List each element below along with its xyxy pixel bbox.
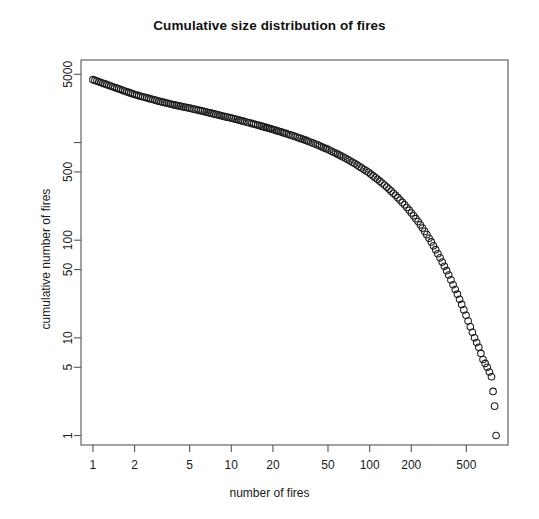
x-tick-label: 20 [266,458,280,472]
x-tick-label: 1 [90,458,97,472]
y-tick-label: 100 [61,230,75,250]
y-axis-label: cumulative number of fires [39,114,53,404]
plot-frame [81,60,508,445]
data-point [491,403,498,410]
data-point [430,243,437,250]
chart-container: Cumulative size distribution of fires 12… [0,0,539,519]
x-tick-label: 200 [401,458,421,472]
y-axis-ticks: 1510501005005000 [61,61,81,439]
x-tick-label: 500 [456,458,476,472]
data-point [478,350,485,357]
data-point [465,318,472,325]
x-tick-label: 50 [321,458,335,472]
y-tick-label: 5 [61,364,75,371]
plot-area: 125102050100200500 1510501005005000 [0,0,539,519]
y-tick-label: 500 [61,162,75,182]
data-point [469,329,476,336]
y-tick-label: 1 [61,432,75,439]
y-tick-label: 5000 [61,61,75,88]
x-axis-label: number of fires [0,486,539,500]
y-tick-label: 10 [61,331,75,345]
y-tick-label: 50 [61,263,75,277]
plot-border [81,60,508,445]
data-points [90,76,500,438]
x-tick-label: 100 [360,458,380,472]
x-axis-ticks: 125102050100200500 [90,445,477,472]
x-tick-label: 2 [131,458,138,472]
x-tick-label: 10 [225,458,239,472]
data-point [372,174,379,181]
x-tick-label: 5 [186,458,193,472]
data-point [482,360,489,367]
data-point [493,432,500,439]
data-point [490,388,497,395]
